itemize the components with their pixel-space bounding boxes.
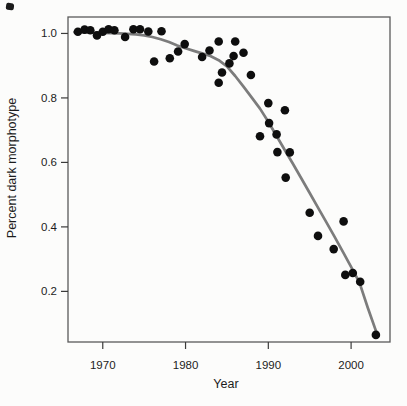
data-point [229, 52, 238, 61]
data-point [349, 269, 358, 278]
data-point [205, 46, 214, 55]
data-point [225, 59, 234, 68]
data-points [74, 25, 381, 339]
x-axis-label: Year [213, 377, 238, 391]
data-point [281, 106, 290, 115]
x-tick-label: 2000 [338, 359, 364, 371]
data-point [339, 217, 348, 226]
data-point [305, 208, 314, 217]
data-point [341, 271, 350, 280]
data-point [329, 245, 338, 254]
x-tick-label: 1970 [90, 359, 116, 371]
data-point [231, 37, 240, 46]
data-point [144, 27, 153, 36]
y-tick-label: 0.6 [41, 156, 57, 168]
data-point [247, 71, 256, 80]
y-tick-label: 0.4 [41, 221, 58, 233]
data-point [180, 40, 189, 49]
data-point [286, 148, 295, 157]
data-point [265, 119, 274, 128]
y-tick-label: 1.0 [41, 27, 57, 39]
data-point [264, 99, 273, 108]
data-point [218, 68, 227, 77]
data-point [121, 33, 130, 42]
trend-line [75, 32, 378, 335]
data-point [256, 132, 265, 141]
data-point [174, 47, 183, 56]
y-axis-label: Percent dark morphotype [5, 98, 19, 238]
x-tick-label: 1990 [256, 359, 282, 371]
data-point [198, 53, 207, 62]
data-point [356, 277, 365, 286]
y-tick-label: 0.2 [41, 285, 57, 297]
x-axis-ticks: 1970198019902000 [90, 342, 364, 371]
data-point [110, 26, 119, 35]
data-point [214, 37, 223, 46]
scatter-plot: 1970198019902000 0.20.40.60.81.0 Year Pe… [0, 0, 407, 406]
moth-morphotype-figure: 1970198019902000 0.20.40.60.81.0 Year Pe… [0, 0, 407, 406]
data-point [150, 57, 159, 66]
y-axis-ticks: 0.20.40.60.81.0 [41, 27, 68, 297]
y-tick-label: 0.8 [41, 92, 57, 104]
data-point [166, 54, 175, 63]
data-point [314, 232, 323, 241]
data-point [136, 25, 145, 34]
data-point [239, 49, 248, 58]
data-point [372, 331, 381, 340]
data-point [157, 27, 166, 36]
data-point [272, 130, 281, 139]
data-point [214, 79, 223, 88]
data-point [273, 148, 282, 157]
data-point [281, 173, 290, 182]
x-tick-label: 1980 [173, 359, 199, 371]
